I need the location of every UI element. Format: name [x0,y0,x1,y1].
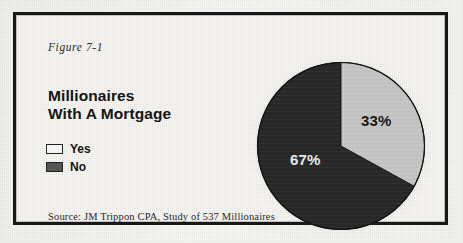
legend-item-yes: Yes [46,141,91,156]
white-swatch-icon [46,144,63,154]
source-note: Source: JM Trippon CPA, Study of 537 Mil… [48,211,275,222]
pie-chart-svg [254,59,428,233]
legend-label-yes: Yes [70,142,91,156]
pie-label-yes: 33% [361,112,392,129]
legend-label-no: No [70,160,86,174]
chart-legend: Yes No [46,141,91,177]
pie-chart: 33% 67% [248,53,430,235]
pie-label-no: 67% [290,151,321,168]
title-line-2: With A Mortgage [48,105,238,123]
figure-label: Figure 7-1 [48,41,103,53]
figure-page: Figure 7-1 Millionaires With A Mortgage … [0,0,463,243]
title-line-1: Millionaires [48,87,238,105]
figure-title: Millionaires With A Mortgage [48,87,238,123]
legend-item-no: No [46,159,91,174]
figure-frame: Figure 7-1 Millionaires With A Mortgage … [13,12,448,225]
gray-swatch-icon [46,162,63,172]
